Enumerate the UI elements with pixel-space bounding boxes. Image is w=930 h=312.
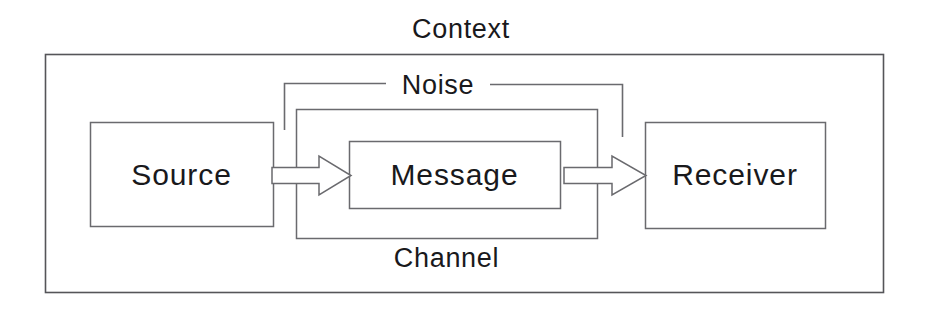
context-label: Context <box>412 16 510 43</box>
message-label-wrap: Message <box>349 158 560 192</box>
noise-bracket-right <box>490 85 623 138</box>
noise-label: Noise <box>402 72 475 99</box>
channel-label: Channel <box>394 245 499 272</box>
receiver-label: Receiver <box>672 160 798 190</box>
noise-label-wrap: Noise <box>378 69 498 101</box>
message-to-receiver-arrow-icon <box>564 156 646 195</box>
channel-label-wrap: Channel <box>296 241 597 275</box>
context-label-wrap: Context <box>311 12 611 46</box>
source-label-wrap: Source <box>90 158 273 192</box>
noise-bracket-left <box>285 84 387 131</box>
source-to-message-arrow-icon <box>272 156 351 195</box>
diagram-canvas: Context Noise Source Message Receiver Ch… <box>0 0 930 312</box>
source-label: Source <box>131 160 231 190</box>
message-label: Message <box>390 160 518 190</box>
receiver-label-wrap: Receiver <box>645 158 825 192</box>
